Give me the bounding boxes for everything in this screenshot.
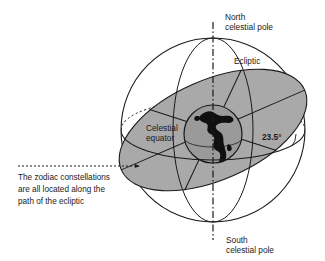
caption-line-1: The zodiac constellations (18, 173, 110, 182)
south-pole-label-line1: South (226, 235, 248, 245)
ecliptic-label: Ecliptic (234, 56, 260, 66)
tilt-angle-label: 23.5° (262, 132, 281, 142)
south-pole-label-line2: celestial pole (226, 245, 274, 255)
north-pole-label-line1: North (225, 12, 246, 22)
caption-line-3: path of the ecliptic (18, 197, 84, 206)
caption-line-2: are all located along the (18, 185, 105, 194)
celestial-equator-label-line1: Celestial (146, 123, 178, 133)
celestial-sphere-diagram: North celestial pole South celestial pol… (0, 0, 325, 261)
celestial-equator-label-line2: equator (146, 133, 174, 143)
north-pole-label-line2: celestial pole (225, 22, 273, 32)
